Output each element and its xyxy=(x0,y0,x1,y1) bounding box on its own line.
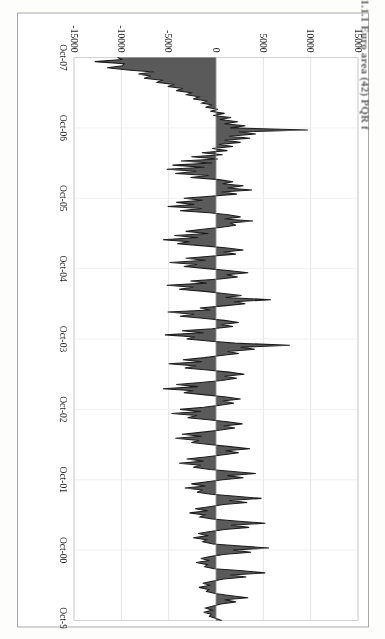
value-axis-tick-labels: 150001000050000-5000-10000-15000 xyxy=(68,25,362,52)
value-tick-label: 10000 xyxy=(305,28,315,52)
value-tick-label: 0 xyxy=(210,47,220,52)
chart-frame: 150001000050000-5000-10000-15000 Oct-07O… xyxy=(17,12,369,627)
value-tick-label: -5000 xyxy=(163,30,173,52)
rotated-chart-stage: 150001000050000-5000-10000-15000 Oct-07O… xyxy=(17,12,369,627)
category-tick-label: Oct-07 xyxy=(58,44,68,71)
figure-caption: 1.1.1 Euro area (42) PQR f xyxy=(360,0,372,130)
category-tick-label: Oct-02 xyxy=(58,396,68,423)
scanned-page: 150001000050000-5000-10000-15000 Oct-07O… xyxy=(0,0,385,639)
figure-caption-strip: 1.1.1 Euro area (42) PQR f xyxy=(359,0,383,639)
category-axis-tick-labels: Oct-07Oct-06Oct-05Oct-04Oct-03Oct-02Oct-… xyxy=(58,44,68,628)
category-tick-label: Oct-04 xyxy=(58,255,68,282)
category-tick-label: Oct-00 xyxy=(58,536,68,563)
category-tick-label: Oct-01 xyxy=(58,466,68,493)
value-tick-label: 5000 xyxy=(258,33,268,52)
series-area-fill xyxy=(94,57,307,620)
area-chart[interactable]: 150001000050000-5000-10000-15000 Oct-07O… xyxy=(16,13,368,628)
category-tick-label: Oct-06 xyxy=(58,114,68,141)
category-tick-label: Oct-99 xyxy=(58,607,68,628)
category-tick-label: Oct-03 xyxy=(58,325,68,352)
value-tick-label: -15000 xyxy=(68,25,78,52)
value-tick-label: -10000 xyxy=(116,25,126,52)
category-tick-label: Oct-05 xyxy=(58,185,68,212)
